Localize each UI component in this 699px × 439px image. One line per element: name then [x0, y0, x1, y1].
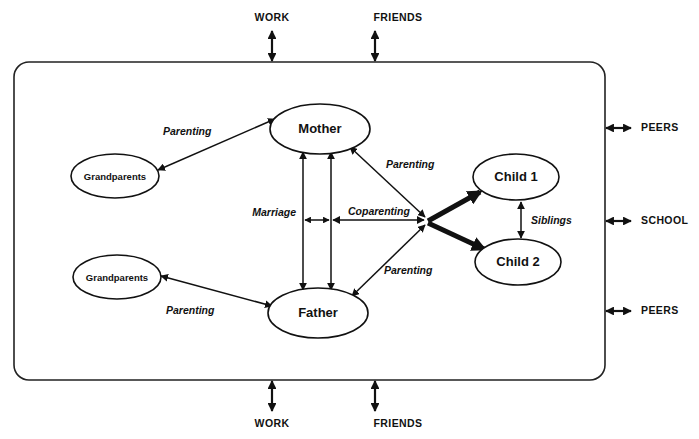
work-top-label: WORK [255, 11, 290, 23]
parenting-father-child-label: Parenting [384, 264, 433, 276]
node-grandparents-paternal[interactable]: Grandparents [73, 255, 161, 299]
grandparents-paternal-label: Grandparents [86, 272, 148, 283]
coparenting-to-child-2-arrow [428, 223, 484, 249]
peers-top-right-label: PEERS [641, 121, 679, 133]
parenting-father-child-arrow [352, 225, 425, 296]
external-context-friends-bottom: FRIENDS [374, 381, 423, 429]
external-context-work-bottom: WORK [255, 381, 290, 429]
grandparents-maternal-label: Grandparents [84, 171, 146, 182]
relationship-parenting-father-child: Parenting [352, 225, 433, 296]
relationship-coparenting: Coparenting [333, 205, 424, 220]
relationship-parenting-maternal-grandparents: Parenting [158, 119, 275, 170]
friends-top-label: FRIENDS [374, 11, 423, 23]
external-context-school: SCHOOL [606, 214, 689, 226]
external-context-friends-top: FRIENDS [374, 11, 423, 61]
diagram-canvas: WORK FRIENDS PEERS SCHOOL PEERS WORK FRI… [0, 0, 699, 439]
external-context-work-top: WORK [255, 11, 290, 61]
siblings-label: Siblings [531, 214, 572, 226]
coparenting-label: Coparenting [348, 205, 410, 217]
relationship-parenting-paternal-grandparents: Parenting [161, 276, 272, 316]
node-father[interactable]: Father [268, 288, 368, 338]
mother-label: Mother [298, 121, 341, 136]
parenting-maternal-grandparents-label: Parenting [163, 125, 212, 137]
peers-bottom-right-label: PEERS [641, 304, 679, 316]
node-child-2[interactable]: Child 2 [475, 239, 561, 285]
external-context-peers-bottom-right: PEERS [606, 304, 679, 316]
parenting-mother-child-label: Parenting [386, 158, 435, 170]
node-mother[interactable]: Mother [270, 104, 370, 154]
node-child-1[interactable]: Child 1 [473, 154, 559, 200]
school-label: SCHOOL [641, 214, 689, 226]
work-bottom-label: WORK [255, 417, 290, 429]
relationship-marriage: Marriage [252, 152, 331, 290]
marriage-label: Marriage [252, 206, 296, 218]
child-2-label: Child 2 [496, 254, 539, 269]
parenting-paternal-grandparents-arrow [161, 276, 272, 306]
family-systems-diagram: WORK FRIENDS PEERS SCHOOL PEERS WORK FRI… [0, 0, 699, 439]
external-context-peers-top-right: PEERS [606, 121, 679, 133]
child-1-label: Child 1 [494, 169, 537, 184]
relationship-siblings: Siblings [521, 202, 572, 238]
node-grandparents-maternal[interactable]: Grandparents [71, 154, 159, 198]
coparenting-to-child-1-arrow [428, 192, 480, 221]
parenting-paternal-grandparents-label: Parenting [166, 304, 215, 316]
father-label: Father [298, 305, 338, 320]
friends-bottom-label: FRIENDS [374, 417, 423, 429]
